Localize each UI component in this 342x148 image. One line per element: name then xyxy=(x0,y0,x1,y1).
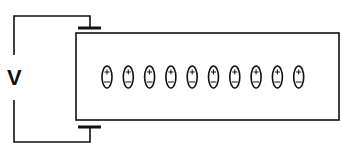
polarized-particle xyxy=(272,66,282,88)
polarized-particle xyxy=(187,66,197,88)
polarized-particle xyxy=(123,66,133,88)
polarized-particle xyxy=(251,66,261,88)
polarized-particle xyxy=(166,66,176,88)
capacitor-diagram: V xyxy=(0,0,342,148)
polarized-particle xyxy=(230,66,240,88)
polarized-particle xyxy=(209,66,219,88)
polarized-particle xyxy=(102,66,112,88)
voltage-label: V xyxy=(7,65,22,90)
polarized-particle xyxy=(294,66,304,88)
polarized-particle xyxy=(145,66,155,88)
